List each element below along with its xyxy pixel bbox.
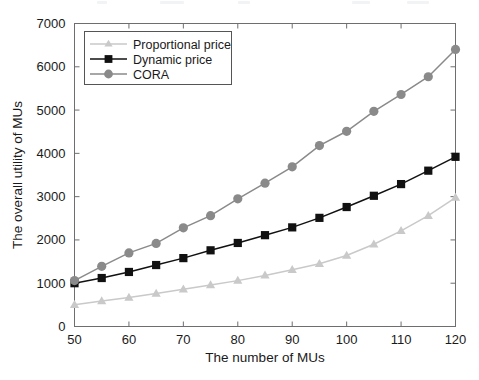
legend-label-dynamic-price: Dynamic price (133, 53, 212, 67)
square-marker-icon (451, 153, 459, 161)
legend-label-proportional-price: Proportional price (133, 38, 231, 52)
y-tick-label: 5000 (37, 103, 66, 118)
circle-marker-icon (233, 194, 242, 203)
legend-label-cora: CORA (133, 68, 170, 82)
square-marker-icon (370, 192, 378, 200)
square-marker-icon (179, 254, 187, 262)
line-chart: 5060708090100110120 01000200030004000500… (0, 0, 479, 380)
x-tick-label: 120 (445, 332, 467, 347)
chart-background (0, 0, 479, 380)
circle-marker-icon (206, 211, 215, 220)
circle-marker-icon (70, 276, 79, 285)
square-marker-icon (125, 268, 133, 276)
square-marker-icon (343, 203, 351, 211)
circle-marker-icon (260, 179, 269, 188)
circle-marker-icon (179, 223, 188, 232)
square-marker-icon (105, 55, 113, 63)
square-marker-icon (315, 214, 323, 222)
y-tick-label: 0 (58, 319, 65, 334)
y-tick-label: 2000 (37, 232, 66, 247)
y-tick-label: 6000 (37, 59, 66, 74)
y-tick-label: 7000 (37, 16, 66, 31)
figure-canvas: 5060708090100110120 01000200030004000500… (0, 0, 479, 380)
square-marker-icon (152, 261, 160, 269)
square-marker-icon (234, 239, 242, 247)
square-marker-icon (424, 167, 432, 175)
y-tick-label: 3000 (37, 189, 66, 204)
x-axis-title: The number of MUs (205, 350, 325, 365)
x-tick-label: 80 (231, 332, 245, 347)
y-axis-title: The overall utility of MUs (10, 101, 25, 249)
circle-marker-icon (288, 162, 297, 171)
circle-marker-icon (97, 262, 106, 271)
x-tick-label: 50 (67, 332, 81, 347)
x-tick-label: 100 (336, 332, 358, 347)
circle-marker-icon (369, 107, 378, 116)
x-tick-label: 60 (122, 332, 136, 347)
square-marker-icon (261, 231, 269, 239)
x-tick-label: 90 (285, 332, 299, 347)
y-tick-label: 4000 (37, 146, 66, 161)
square-marker-icon (98, 274, 106, 282)
circle-marker-icon (451, 45, 460, 54)
x-tick-label: 110 (391, 332, 412, 347)
circle-marker-icon (315, 141, 324, 150)
circle-marker-icon (424, 72, 433, 81)
circle-marker-icon (342, 127, 351, 136)
square-marker-icon (206, 246, 214, 254)
legend[interactable]: Proportional price Dynamic price CORA (85, 32, 232, 85)
y-tick-label: 1000 (37, 276, 66, 291)
square-marker-icon (397, 180, 405, 188)
circle-marker-icon (152, 239, 161, 248)
x-tick-label: 70 (176, 332, 190, 347)
circle-marker-icon (104, 70, 113, 79)
circle-marker-icon (124, 248, 133, 257)
square-marker-icon (288, 223, 296, 231)
circle-marker-icon (396, 90, 405, 99)
scan-artifact-strip (0, 0, 479, 6)
